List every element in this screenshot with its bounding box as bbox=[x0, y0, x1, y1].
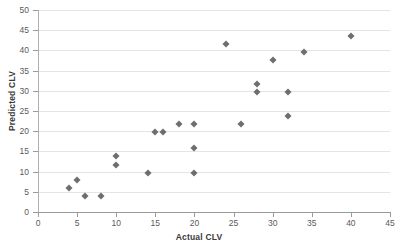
gridline-horizontal bbox=[38, 30, 390, 31]
data-point bbox=[175, 121, 182, 128]
data-point bbox=[97, 193, 104, 200]
y-axis-tick bbox=[33, 151, 38, 152]
data-point bbox=[222, 40, 229, 47]
y-axis-tick-label: 20 bbox=[20, 127, 29, 136]
data-point bbox=[74, 177, 81, 184]
x-axis-tick bbox=[351, 213, 352, 217]
data-point bbox=[191, 121, 198, 128]
x-axis-tick-label: 45 bbox=[385, 219, 394, 228]
x-axis-tick-label: 25 bbox=[229, 219, 238, 228]
x-axis-tick-label: 20 bbox=[190, 219, 199, 228]
x-axis-tick-label: 40 bbox=[346, 219, 355, 228]
y-axis-tick bbox=[33, 131, 38, 132]
data-point bbox=[81, 193, 88, 200]
x-axis-line bbox=[38, 212, 391, 213]
gridline-horizontal bbox=[38, 151, 390, 152]
x-axis-tick bbox=[273, 213, 274, 217]
x-axis-tick-label: 30 bbox=[268, 219, 277, 228]
data-point bbox=[285, 113, 292, 120]
gridline-horizontal bbox=[38, 10, 390, 11]
x-axis-tick-label: 15 bbox=[151, 219, 160, 228]
y-axis-line bbox=[38, 10, 39, 213]
y-axis-tick-label: 50 bbox=[20, 6, 29, 15]
x-axis-tick-label: 5 bbox=[75, 219, 80, 228]
data-point bbox=[152, 129, 159, 136]
y-axis-tick-label: 15 bbox=[20, 147, 29, 156]
y-axis-tick bbox=[33, 192, 38, 193]
y-axis-tick-label: 40 bbox=[20, 46, 29, 55]
x-axis-tick-label: 35 bbox=[307, 219, 316, 228]
gridline-horizontal bbox=[38, 91, 390, 92]
x-axis-tick bbox=[38, 213, 39, 217]
x-axis-tick-label: 10 bbox=[111, 219, 120, 228]
y-axis-title: Predicted CLV bbox=[7, 51, 17, 151]
data-point bbox=[144, 169, 151, 176]
y-axis-tick-label: 0 bbox=[24, 208, 29, 217]
gridline-horizontal bbox=[38, 50, 390, 51]
y-axis-tick bbox=[33, 91, 38, 92]
x-axis-title: Actual CLV bbox=[0, 232, 398, 242]
x-axis-tick bbox=[116, 213, 117, 217]
gridline-horizontal bbox=[38, 71, 390, 72]
data-point bbox=[113, 161, 120, 168]
x-axis-tick bbox=[312, 213, 313, 217]
data-point bbox=[238, 121, 245, 128]
data-point bbox=[347, 32, 354, 39]
y-axis-tick bbox=[33, 111, 38, 112]
data-point bbox=[160, 129, 167, 136]
data-point bbox=[113, 152, 120, 159]
y-axis-tick-label: 45 bbox=[20, 26, 29, 35]
y-axis-tick-label: 5 bbox=[24, 188, 29, 197]
y-axis-tick-label: 30 bbox=[20, 87, 29, 96]
data-point bbox=[253, 81, 260, 88]
y-axis-tick bbox=[33, 30, 38, 31]
x-axis-tick bbox=[194, 213, 195, 217]
x-axis-tick bbox=[77, 213, 78, 217]
plot-area bbox=[38, 10, 390, 212]
gridline-horizontal bbox=[38, 172, 390, 173]
x-axis-tick-label: 0 bbox=[36, 219, 41, 228]
y-axis-tick bbox=[33, 10, 38, 11]
data-point bbox=[269, 57, 276, 64]
data-point bbox=[191, 169, 198, 176]
y-axis-tick bbox=[33, 50, 38, 51]
gridline-horizontal bbox=[38, 111, 390, 112]
y-axis-tick bbox=[33, 172, 38, 173]
y-axis-tick-label: 25 bbox=[20, 107, 29, 116]
gridline-horizontal bbox=[38, 192, 390, 193]
y-axis-tick-label: 10 bbox=[20, 168, 29, 177]
y-axis-tick bbox=[33, 71, 38, 72]
gridline-horizontal bbox=[38, 131, 390, 132]
x-axis-tick bbox=[234, 213, 235, 217]
scatter-chart: Actual CLV Predicted CLV 051015202530354… bbox=[0, 0, 398, 250]
x-axis-tick bbox=[390, 213, 391, 217]
y-axis-tick-label: 35 bbox=[20, 67, 29, 76]
data-point bbox=[66, 185, 73, 192]
x-axis-tick bbox=[155, 213, 156, 217]
